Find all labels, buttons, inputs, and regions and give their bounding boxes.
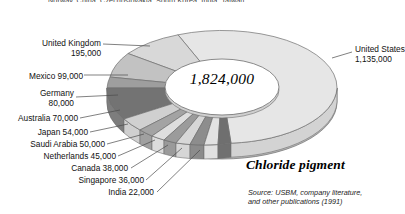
label-saudi-arabia: Saudi Arabia 50,000 [2,139,105,149]
label-united-states-value: 1,135,000 [355,54,392,64]
chart-title: Chloride pigment [246,157,345,173]
leader-united-kingdom [103,44,150,46]
label-united-states: United States 1,135,000 [355,44,403,64]
label-canada: Canada 38,000 [40,163,128,173]
source-line-2: and other publications (1991) [248,197,343,206]
center-total-value: 1,824,000 [170,70,274,88]
label-germany-value: 80,000 [49,98,74,108]
label-netherlands: Netherlands 45,000 [12,151,116,161]
label-singapore: Singapore 36,000 [46,175,144,185]
source-line-1: Source: USBM, company literature, [248,188,362,197]
donut-hole [165,59,279,118]
label-united-kingdom-value: 195,000 [71,48,101,58]
label-australia: Australia 70,000 [0,113,78,123]
label-germany: Germany 80,000 [0,88,74,108]
label-japan: Japan 54,000 [14,127,88,137]
label-germany-name: Germany [40,88,74,98]
label-united-kingdom: United Kingdom 195,000 [6,38,101,58]
leader-united-states [332,52,352,58]
label-india: India 22,000 [78,187,154,197]
source-note: Source: USBM, company literature, and ot… [248,188,398,206]
label-mexico: Mexico 99,000 [0,71,83,81]
label-united-kingdom-name: United Kingdom [42,38,101,48]
label-united-states-name: United States [355,44,405,54]
